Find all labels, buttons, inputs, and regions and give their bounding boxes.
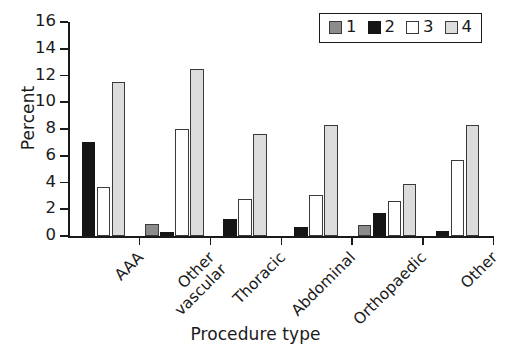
legend-entry-3: 3 bbox=[406, 19, 434, 36]
bar-other-vascular-series-4 bbox=[190, 69, 204, 236]
y-axis-tick-label: 4 bbox=[20, 174, 56, 191]
bar-other-series-3 bbox=[451, 160, 465, 236]
bar-thoracic-series-2 bbox=[223, 219, 237, 236]
legend-label-4: 4 bbox=[462, 19, 473, 36]
x-axis-tick bbox=[281, 236, 282, 245]
legend-label-2: 2 bbox=[385, 19, 396, 36]
y-axis-tick bbox=[60, 155, 68, 157]
legend-swatch-2 bbox=[368, 21, 381, 34]
y-axis-tick-label: 0 bbox=[20, 227, 56, 244]
y-axis-tick bbox=[60, 48, 68, 50]
y-axis-tick-label: 10 bbox=[20, 93, 56, 110]
legend-swatch-4 bbox=[445, 21, 458, 34]
y-axis-tick bbox=[60, 182, 68, 184]
y-axis-tick bbox=[60, 208, 68, 210]
y-axis-tick-label: 6 bbox=[20, 147, 56, 164]
y-axis-tick-label: 8 bbox=[20, 120, 56, 137]
bar-aaa-series-2 bbox=[82, 142, 96, 236]
y-axis-tick-label: 16 bbox=[20, 13, 56, 30]
x-axis-tick bbox=[422, 236, 423, 245]
bar-orthopaedic-series-3 bbox=[388, 201, 402, 236]
bar-chart: Percent 0246810121416 AAAOther vascularT… bbox=[0, 0, 511, 356]
chart-legend: 1234 bbox=[319, 13, 482, 43]
y-axis-tick bbox=[60, 128, 68, 130]
legend-label-3: 3 bbox=[423, 19, 434, 36]
bar-other-vascular-series-3 bbox=[175, 129, 189, 236]
bar-orthopaedic-series-4 bbox=[403, 184, 417, 236]
bar-other-vascular-series-2 bbox=[160, 232, 174, 236]
bar-orthopaedic-series-2 bbox=[373, 213, 387, 236]
bar-abdominal-series-3 bbox=[309, 195, 323, 236]
y-axis-tick bbox=[60, 101, 68, 103]
y-axis-tick bbox=[60, 75, 68, 77]
bar-other-series-4 bbox=[466, 125, 480, 236]
plot-area bbox=[68, 22, 493, 236]
y-axis-tick-label: 12 bbox=[20, 67, 56, 84]
x-axis-tick bbox=[493, 236, 494, 245]
legend-swatch-3 bbox=[406, 21, 419, 34]
legend-swatch-1 bbox=[329, 21, 342, 34]
y-axis-tick-label: 2 bbox=[20, 200, 56, 217]
x-axis-tick bbox=[351, 236, 352, 245]
bar-other-series-2 bbox=[436, 231, 450, 236]
y-axis-tick-label: 14 bbox=[20, 40, 56, 57]
bar-thoracic-series-4 bbox=[253, 134, 267, 236]
bar-thoracic-series-3 bbox=[238, 199, 252, 236]
bar-abdominal-series-4 bbox=[324, 125, 338, 236]
legend-label-1: 1 bbox=[346, 19, 357, 36]
bar-aaa-series-4 bbox=[112, 82, 126, 236]
legend-entry-4: 4 bbox=[445, 19, 473, 36]
x-axis-tick bbox=[210, 236, 211, 245]
bar-orthopaedic-series-1 bbox=[358, 225, 372, 236]
x-axis-title: Procedure type bbox=[0, 324, 511, 344]
y-axis-tick bbox=[60, 235, 68, 237]
legend-entry-2: 2 bbox=[368, 19, 396, 36]
bar-aaa-series-3 bbox=[97, 187, 111, 236]
x-axis-tick bbox=[139, 236, 140, 245]
legend-entry-1: 1 bbox=[329, 19, 357, 36]
bar-abdominal-series-2 bbox=[294, 227, 308, 236]
bar-other-vascular-series-1 bbox=[145, 224, 159, 236]
y-axis-tick bbox=[60, 21, 68, 23]
